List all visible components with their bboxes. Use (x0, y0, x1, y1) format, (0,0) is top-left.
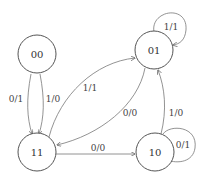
label-01-self: 1/1 (164, 22, 178, 32)
label-11-01: 1/1 (83, 83, 97, 93)
edge-00-11-a (28, 74, 32, 134)
label-01-11: 0/0 (123, 108, 138, 118)
svg-text:00: 00 (31, 49, 44, 60)
svg-text:11: 11 (31, 147, 44, 158)
edge-00-11-b (39, 74, 43, 134)
svg-text:01: 01 (148, 45, 161, 56)
label-10-self: 0/1 (176, 140, 190, 150)
state-11: 11 (18, 133, 56, 171)
state-10: 10 (136, 133, 174, 171)
edge-10-01 (158, 70, 165, 134)
svg-text:10: 10 (149, 147, 162, 158)
label-00-11-a: 0/1 (9, 94, 23, 104)
edge-01-11 (57, 68, 145, 145)
edge-11-01 (49, 58, 135, 137)
label-00-11-b: 1/0 (46, 94, 61, 104)
label-11-10: 0/0 (91, 143, 106, 153)
state-diagram: 0/1 1/0 1/1 0/0 0/0 1/0 1/1 0/1 00 01 11… (0, 0, 205, 179)
label-10-01: 1/0 (169, 108, 184, 118)
state-00: 00 (18, 35, 56, 73)
state-01: 01 (135, 31, 173, 69)
